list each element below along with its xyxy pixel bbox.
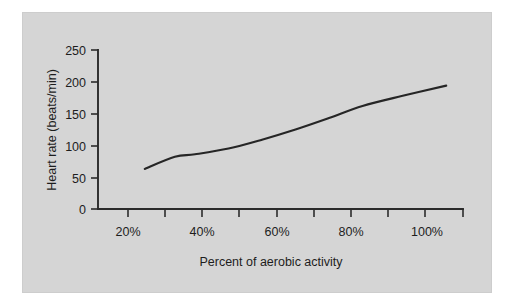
x-tick-label-20: 20% — [115, 225, 140, 239]
x-tick-label-40: 40% — [189, 225, 214, 239]
x-tick-label-100: 100% — [411, 225, 443, 239]
x-axis-title: Percent of aerobic activity — [199, 255, 343, 269]
x-axis-ticks — [128, 209, 463, 217]
y-axis-title: Heart rate (beats/min) — [45, 69, 59, 191]
x-axis-tick-labels: 20% 40% 60% 80% 100% — [115, 225, 443, 239]
screenshot-root: 250 200 150 100 50 0 20% 40% 60% 80% 1 — [0, 0, 511, 308]
x-tick-label-80: 80% — [338, 225, 363, 239]
y-tick-label-250: 250 — [65, 44, 86, 58]
line-chart: 250 200 150 100 50 0 20% 40% 60% 80% 1 — [0, 0, 511, 308]
y-axis-ticks — [91, 50, 98, 209]
y-tick-label-200: 200 — [65, 76, 86, 90]
y-axis-tick-labels: 250 200 150 100 50 0 — [65, 44, 86, 217]
y-tick-label-0: 0 — [79, 203, 86, 217]
heart-rate-curve — [145, 86, 447, 169]
y-tick-label-100: 100 — [65, 140, 86, 154]
x-tick-label-60: 60% — [264, 225, 289, 239]
y-tick-label-150: 150 — [65, 108, 86, 122]
y-tick-label-50: 50 — [72, 172, 86, 186]
